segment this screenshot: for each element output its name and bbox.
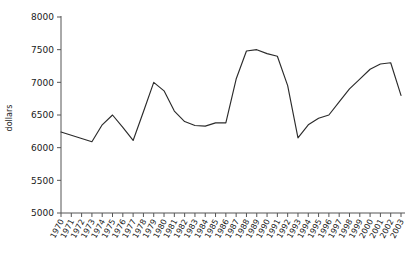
x-axis-ticks: 1970197119721973197419751976197719781979…	[48, 213, 406, 240]
line-chart: dollars 5000550060006500700075008000 197…	[0, 0, 420, 256]
y-tick-label: 6500	[31, 110, 54, 120]
y-tick-label: 6000	[31, 143, 54, 153]
y-axis-ticks: 5000550060006500700075008000	[31, 12, 61, 218]
y-axis-title: dollars	[5, 105, 14, 132]
series-line-dollars	[61, 50, 401, 142]
y-axis-label: dollars	[5, 105, 14, 132]
y-tick-label: 5500	[31, 176, 54, 186]
y-tick-label: 7500	[31, 45, 54, 55]
chart-canvas: dollars 5000550060006500700075008000 197…	[0, 0, 420, 256]
y-tick-label: 7000	[31, 78, 54, 88]
data-series	[61, 50, 401, 142]
y-tick-label: 8000	[31, 12, 54, 22]
y-tick-label: 5000	[31, 208, 54, 218]
